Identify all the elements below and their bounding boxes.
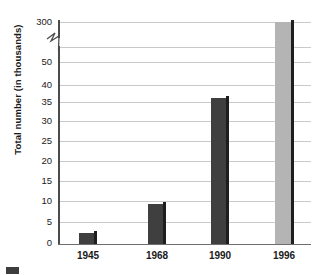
- bar-1968-cap: [163, 202, 166, 204]
- x-tick-label-1968: 1968: [132, 250, 182, 261]
- bar-1990-side: [226, 98, 229, 244]
- gridline-35: [60, 102, 311, 103]
- y-axis-line-lower: [58, 46, 60, 245]
- gridline-20: [60, 161, 311, 162]
- gridline-5: [60, 222, 311, 223]
- gridline-25: [60, 141, 311, 142]
- x-tick-label-1996: 1996: [259, 250, 309, 261]
- y-tick-label-5: 5: [14, 216, 52, 227]
- bar-1945-face: [79, 233, 94, 244]
- gridline-break: [60, 47, 311, 48]
- bar-1945[interactable]: [79, 233, 97, 244]
- bar-1996[interactable]: [275, 22, 294, 244]
- bar-1996-face: [275, 22, 291, 244]
- bar-1996-cap: [291, 20, 294, 22]
- gridline-30: [60, 121, 311, 122]
- axis-break-icon: [46, 31, 68, 51]
- x-tick-label-1990: 1990: [195, 250, 245, 261]
- bar-1945-cap: [94, 231, 97, 233]
- bar-1990-face: [211, 98, 226, 244]
- y-tick-label-300: 300: [14, 16, 52, 27]
- gridline-15: [60, 181, 311, 182]
- y-tick-label-30: 30: [14, 115, 52, 126]
- y-tick-label-35: 35: [14, 96, 52, 107]
- bar-1968-side: [163, 204, 166, 244]
- y-tick-label-10: 10: [14, 195, 52, 206]
- bar-1990-cap: [226, 96, 229, 98]
- bar-1968[interactable]: [148, 204, 166, 244]
- gridline-40: [60, 85, 311, 86]
- y-tick-label-20: 20: [14, 155, 52, 166]
- bar-chart: Total number (in thousands) 300 50 40 35…: [0, 0, 325, 275]
- y-tick-label-25: 25: [14, 135, 52, 146]
- gridline-300: [60, 22, 311, 23]
- y-tick-label-50: 50: [14, 56, 52, 67]
- gridline-50: [60, 62, 311, 63]
- bar-1990[interactable]: [211, 98, 229, 244]
- y-tick-label-40: 40: [14, 79, 52, 90]
- gridline-10: [60, 201, 311, 202]
- bar-1996-side: [291, 22, 294, 244]
- bar-1945-side: [94, 233, 97, 244]
- x-tick-label-1945: 1945: [63, 250, 113, 261]
- bar-1968-face: [148, 204, 163, 244]
- legend: [6, 267, 25, 275]
- y-tick-label-15: 15: [14, 175, 52, 186]
- legend-swatch: [6, 267, 19, 274]
- y-tick-label-0: 0: [14, 237, 52, 248]
